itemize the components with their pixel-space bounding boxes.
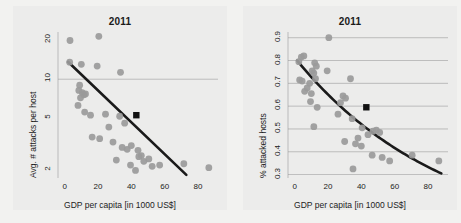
figure-root: 2011 Avg. # attacks per host GDP per cap… <box>0 0 461 223</box>
x-tick-label: 40 <box>119 182 143 191</box>
y-tick-label: 20 <box>43 31 52 45</box>
x-tick-label: 40 <box>349 182 373 191</box>
x-tick-label: 20 <box>86 182 110 191</box>
x-tick-label: 0 <box>283 182 307 191</box>
x-tick-label: 60 <box>153 182 177 191</box>
x-tick-label: 80 <box>416 182 440 191</box>
y-tick-label: 5 <box>43 110 52 124</box>
x-tick-label: 60 <box>383 182 407 191</box>
y-tick-label: 0.4 <box>273 143 282 157</box>
chart-panel-left: 2011 Avg. # attacks per host GDP per cap… <box>13 6 227 210</box>
y-tick-label: 0.5 <box>273 120 282 134</box>
y-tick-label: 0.9 <box>273 29 282 43</box>
panel-right-plot-area <box>288 32 448 178</box>
panel-right-title: 2011 <box>243 16 457 27</box>
panel-right-y-axis-label: % attacked hosts <box>258 113 268 178</box>
x-tick-label: 80 <box>186 182 210 191</box>
y-tick-label: 2 <box>43 162 52 176</box>
panel-left-y-axis-label: Avg. # attacks per host <box>28 92 38 178</box>
panel-left-x-axis-label: GDP per capita [in 1000 US$] <box>13 200 227 210</box>
y-tick-label: 0.3 <box>273 166 282 180</box>
x-tick-label: 0 <box>53 182 77 191</box>
panel-left-title: 2011 <box>13 16 227 27</box>
y-tick-label: 0.6 <box>273 98 282 112</box>
panel-left-plot-area <box>58 32 218 178</box>
chart-panel-right: 2011 % attacked hosts GDP per capita [in… <box>243 6 457 210</box>
y-tick-label: 10 <box>43 71 52 85</box>
y-tick-label: 0.7 <box>273 75 282 89</box>
x-tick-label: 20 <box>316 182 340 191</box>
panel-right-x-axis-label: GDP per capita [in 1000 US$] <box>243 200 457 210</box>
y-tick-label: 0.8 <box>273 52 282 66</box>
